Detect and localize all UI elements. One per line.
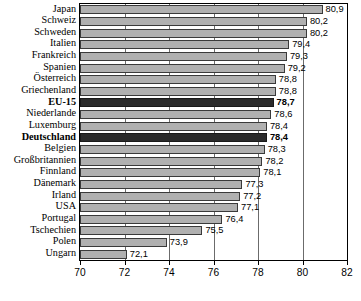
bar-row: 78,8	[80, 87, 347, 96]
x-tick-label: 76	[208, 267, 219, 279]
bar	[80, 5, 323, 14]
bar	[80, 17, 307, 26]
bar	[80, 87, 276, 96]
bar-row: 78,1	[80, 168, 347, 177]
category-label: Ungarn	[0, 248, 76, 259]
bar	[80, 98, 274, 107]
bar	[80, 226, 202, 235]
bar-value-label: 78,7	[277, 97, 295, 107]
bar-value-label: 78,6	[274, 109, 292, 119]
category-label: Italien	[0, 38, 76, 49]
x-tick-label: 78	[252, 267, 263, 279]
bar	[80, 133, 267, 142]
bar	[80, 180, 242, 189]
x-tick-label: 70	[74, 267, 85, 279]
bar-value-label: 73,9	[170, 237, 188, 247]
bar-chart: JapanSchweizSchwedenItalienFrankreichSpa…	[0, 0, 361, 301]
plot-area: 80,980,280,279,479,379,278,878,878,778,6…	[79, 3, 348, 261]
bar-value-label: 80,2	[310, 28, 328, 38]
category-label: Dänemark	[0, 178, 76, 189]
x-tick-mark	[214, 261, 215, 265]
x-tick-label: 82	[341, 267, 352, 279]
bar-value-label: 78,3	[268, 144, 286, 154]
bar-row: 80,2	[80, 29, 347, 38]
bar-row: 78,7	[80, 98, 347, 107]
bar-value-label: 78,4	[270, 121, 288, 131]
x-tick-label: 74	[163, 267, 174, 279]
bar-row: 78,8	[80, 75, 347, 84]
category-label: Polen	[0, 236, 76, 247]
bar	[80, 64, 285, 73]
bar-value-label: 72,1	[130, 249, 148, 259]
x-tick-mark	[347, 261, 348, 265]
category-label: Irland	[0, 190, 76, 201]
bar-row: 77,2	[80, 192, 347, 201]
bar-row: 73,9	[80, 238, 347, 247]
bar-row: 79,2	[80, 64, 347, 73]
category-label: Schweiz	[0, 15, 76, 26]
bar-value-label: 78,8	[279, 86, 297, 96]
bar-row: 78,2	[80, 157, 347, 166]
category-label: Luxemburg	[0, 120, 76, 131]
x-tick-mark	[258, 261, 259, 265]
bar-row: 79,4	[80, 40, 347, 49]
bar	[80, 168, 260, 177]
category-label: Schweden	[0, 27, 76, 38]
bar-value-label: 80,2	[310, 16, 328, 26]
x-tick-mark	[169, 261, 170, 265]
category-label: Japan	[0, 4, 76, 15]
bar-row: 78,6	[80, 110, 347, 119]
bar	[80, 250, 127, 259]
category-label: Niederlande	[0, 108, 76, 119]
bar	[80, 145, 265, 154]
x-tick-label: 80	[297, 267, 308, 279]
bar-row: 75,5	[80, 226, 347, 235]
bar-value-label: 80,9	[326, 4, 344, 14]
bar-row: 77,3	[80, 180, 347, 189]
bar-row: 78,4	[80, 133, 347, 142]
bar	[80, 192, 240, 201]
category-label: Großbritannien	[0, 155, 76, 166]
bar	[80, 157, 262, 166]
x-tick-mark	[303, 261, 304, 265]
bar	[80, 75, 276, 84]
bar-row: 78,3	[80, 145, 347, 154]
category-label: Griechenland	[0, 85, 76, 96]
bar-value-label: 77,3	[245, 179, 263, 189]
bar-row: 80,9	[80, 5, 347, 14]
bar	[80, 203, 238, 212]
bar	[80, 215, 222, 224]
category-label: USA	[0, 201, 76, 212]
bar-row: 78,4	[80, 122, 347, 131]
category-label: Frankreich	[0, 50, 76, 61]
bar-value-label: 78,2	[265, 156, 283, 166]
x-tick-mark	[125, 261, 126, 265]
bar-value-label: 75,5	[205, 225, 223, 235]
category-label: Deutschland	[0, 132, 76, 143]
bar-value-label: 79,3	[290, 51, 308, 61]
bar-value-label: 78,4	[270, 132, 288, 142]
category-label: Finnland	[0, 166, 76, 177]
bar-row: 79,3	[80, 52, 347, 61]
bar-value-label: 79,4	[292, 39, 310, 49]
bar-row: 77,1	[80, 203, 347, 212]
bar-value-label: 76,4	[225, 214, 243, 224]
bar	[80, 110, 271, 119]
x-tick-label: 72	[119, 267, 130, 279]
bar-row: 72,1	[80, 250, 347, 259]
bar-value-label: 79,2	[288, 63, 306, 73]
bar	[80, 122, 267, 131]
category-label: Österreich	[0, 73, 76, 84]
x-tick-mark	[80, 261, 81, 265]
category-label: EU-15	[0, 97, 76, 108]
category-label: Portugal	[0, 213, 76, 224]
category-label-column: JapanSchweizSchwedenItalienFrankreichSpa…	[0, 0, 76, 262]
bar-row: 76,4	[80, 215, 347, 224]
bar-value-label: 78,1	[263, 167, 281, 177]
bar-value-label: 77,2	[243, 191, 261, 201]
bar-row: 80,2	[80, 17, 347, 26]
bar	[80, 52, 287, 61]
x-axis: 70727476788082	[79, 261, 348, 291]
bar	[80, 40, 289, 49]
bar-value-label: 78,8	[279, 74, 297, 84]
